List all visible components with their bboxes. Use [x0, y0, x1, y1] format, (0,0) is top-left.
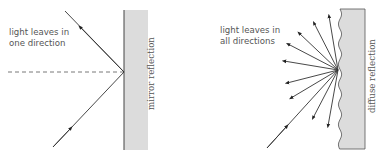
mirror-panel [124, 10, 148, 150]
diffuse-incident-ray [267, 70, 338, 148]
diffuse-reflection-label: diffuse reflection [367, 39, 377, 113]
arrow-icon [267, 126, 287, 148]
mirror-label-line1: light leaves in [9, 27, 69, 37]
diffuse-label-line1: light leaves in [220, 25, 280, 35]
mirror-label-line2: one direction [9, 38, 65, 48]
mirror-incident-ray [53, 72, 124, 147]
diffuse-panel [338, 9, 365, 149]
mirror-reflected-ray [65, 11, 124, 72]
diffuse-reflected-rays [284, 16, 338, 126]
diffuse-label-line2: all directions [220, 36, 275, 46]
mirror-reflection-label: mirror reflection [146, 37, 156, 110]
diffuse-reflected-ray [328, 70, 338, 126]
reflection-diagram: mirror reflection light leaves in one di… [0, 0, 386, 159]
diffuse-surface [338, 9, 365, 149]
arrow-icon [53, 128, 71, 147]
mirror-surface [124, 10, 148, 150]
arrow-icon [80, 27, 124, 72]
diffuse-reflected-ray [287, 70, 338, 83]
